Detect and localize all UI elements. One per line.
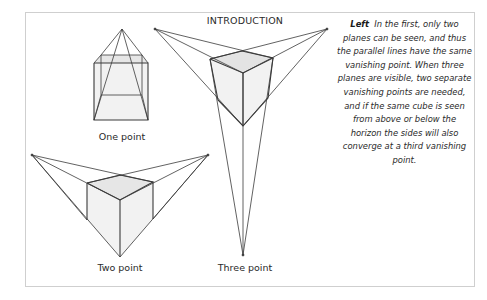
- caption-two-point: Two point: [84, 262, 156, 273]
- section-heading: INTRODUCTION: [205, 15, 285, 26]
- side-caption: Left In the first, only two planes can b…: [337, 18, 472, 168]
- caption-one-point: One point: [86, 131, 158, 142]
- three-point-figure: [154, 28, 328, 256]
- side-caption-lead: Left: [350, 19, 369, 29]
- one-point-figure: [94, 29, 148, 120]
- caption-three-point: Three point: [205, 262, 285, 273]
- two-point-figure: [31, 154, 209, 257]
- side-caption-body: In the first, only two planes can be see…: [337, 19, 472, 165]
